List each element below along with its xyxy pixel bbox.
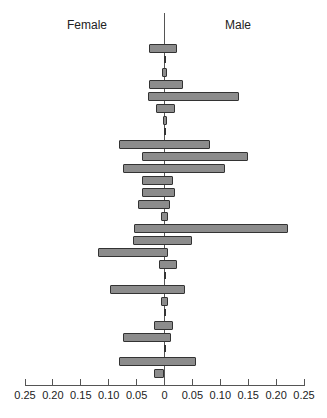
x-tick: [108, 379, 109, 385]
x-tick: [192, 379, 193, 385]
x-tick: [80, 379, 81, 385]
bar-row-5: [148, 92, 239, 101]
x-tick-label: 0.25: [293, 389, 314, 401]
bar-row-6: [156, 104, 175, 113]
bar-row-9: [119, 140, 209, 149]
x-tick-label: 0: [161, 389, 167, 401]
bar-sliver: [164, 272, 166, 279]
bar-row-18: [98, 248, 168, 257]
population-pyramid-chart: Female Male 0.250.200.150.100.0500.050.1…: [0, 0, 327, 418]
bar-sliver: [164, 56, 166, 63]
x-tick: [164, 379, 165, 385]
bar-row-15: [161, 212, 169, 221]
x-tick-label: 0.20: [42, 389, 63, 401]
x-tick: [220, 379, 221, 385]
bar-row-27: [119, 357, 195, 366]
bar-sliver: [164, 309, 166, 316]
x-tick-label: 0.15: [237, 389, 258, 401]
bar-row-12: [142, 176, 174, 185]
x-tick-label: 0.25: [14, 389, 35, 401]
bar-row-3: [162, 68, 168, 77]
bar-row-19: [159, 260, 176, 269]
bar-row-25: [123, 333, 171, 342]
bar-row-21: [110, 285, 184, 294]
bar-row-13: [142, 188, 175, 197]
x-tick-label: 0.20: [265, 389, 286, 401]
x-axis-line: [25, 385, 305, 386]
x-tick: [136, 379, 137, 385]
x-tick: [276, 379, 277, 385]
bar-row-24: [154, 321, 173, 330]
bar-row-10: [142, 152, 248, 161]
bar-sliver: [164, 128, 166, 135]
x-tick: [248, 379, 249, 385]
female-group-label: Female: [67, 18, 107, 32]
bar-row-7: [163, 116, 167, 125]
x-tick-label: 0.15: [70, 389, 91, 401]
bar-row-22: [161, 297, 169, 306]
x-tick-label: 0.05: [182, 389, 203, 401]
bar-sliver: [164, 345, 166, 352]
bar-row-16: [134, 224, 288, 233]
x-tick-label: 0.05: [126, 389, 147, 401]
bar-row-17: [133, 236, 192, 245]
bar-row-28: [154, 369, 164, 378]
bar-row-11: [123, 164, 225, 173]
male-group-label: Male: [225, 18, 251, 32]
x-tick: [52, 379, 53, 385]
bar-row-1: [149, 44, 177, 53]
x-tick-label: 0.10: [210, 389, 231, 401]
x-tick: [304, 379, 305, 385]
x-tick: [25, 379, 26, 385]
bar-row-4: [149, 80, 183, 89]
x-tick-label: 0.10: [98, 389, 119, 401]
bar-row-14: [138, 200, 169, 209]
